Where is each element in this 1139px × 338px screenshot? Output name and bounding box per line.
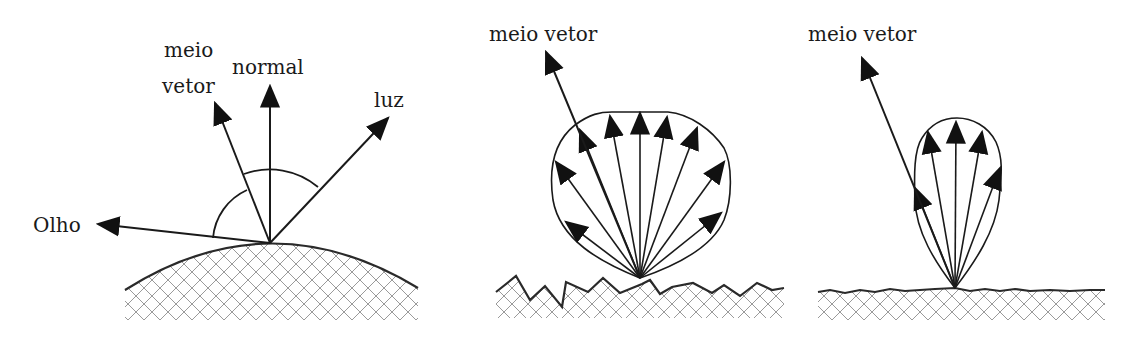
- figure-rough-surface: meio vetor: [489, 22, 790, 322]
- lobe-arrow: [610, 116, 640, 278]
- surface-hatch: [120, 195, 425, 325]
- label-eye: Olho: [33, 213, 81, 237]
- surface-hatch: [815, 280, 1110, 322]
- half-vector-arrow: [215, 103, 270, 243]
- half-vector-arrow: [862, 58, 955, 288]
- reflection-diagram: meio vetor normal luz Olho meio vetor me: [0, 0, 1139, 338]
- reflection-lobe-wide: [552, 112, 731, 278]
- light-vector-arrow: [270, 118, 388, 243]
- eye-vector-arrow: [98, 224, 270, 243]
- label-light: luz: [374, 88, 404, 112]
- lobe-arrow: [928, 132, 955, 288]
- lobe-arrow: [955, 122, 956, 288]
- angle-arc-half-light: [244, 169, 318, 187]
- half-vector-arrow: [546, 52, 640, 278]
- label-normal: normal: [232, 55, 304, 79]
- label-half-vector: meio vetor: [808, 22, 917, 46]
- lobe-arrow: [640, 117, 667, 278]
- label-half-vector: meio vetor: [489, 22, 598, 46]
- reflection-lobe-narrow: [915, 118, 1002, 288]
- figure-geometry: meio vetor normal luz Olho: [33, 38, 425, 325]
- label-half-vector-line1: meio: [164, 38, 213, 62]
- figure-smooth-surface: meio vetor: [808, 22, 1110, 322]
- angle-arc-eye-half: [213, 190, 247, 238]
- lobe-arrow: [955, 132, 982, 288]
- lobe-arrow: [955, 168, 1000, 288]
- label-half-vector-line2: vetor: [161, 74, 215, 98]
